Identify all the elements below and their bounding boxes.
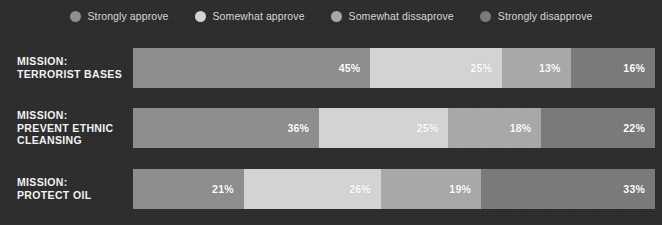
bar-segment-value: 25% [470, 63, 492, 74]
bar-segment[interactable]: 13% [502, 48, 571, 88]
legend-item-label: Strongly approve [88, 11, 169, 22]
bar-segment[interactable]: 22% [541, 108, 655, 148]
legend-item[interactable]: Strongly disapprove [480, 11, 593, 22]
stacked-bar: 21%26%19%33% [133, 169, 655, 209]
bar-segment-value: 16% [623, 63, 645, 74]
row-label-line: MISSION: [17, 55, 133, 68]
chart-row: MISSION:TERRORIST BASES45%25%13%16% [0, 48, 662, 88]
legend-dot-icon [70, 11, 81, 22]
bar-segment[interactable]: 45% [133, 48, 370, 88]
bar-segment[interactable]: 36% [133, 108, 319, 148]
legend-item-label: Strongly disapprove [498, 11, 593, 22]
row-label-line: TERRORIST BASES [17, 68, 133, 81]
bar-segment[interactable]: 26% [244, 169, 381, 209]
bar-segment-value: 19% [449, 184, 471, 195]
bar-segment-value: 36% [287, 123, 309, 134]
bar-segment-value: 22% [623, 123, 645, 134]
bar-segment[interactable]: 33% [481, 169, 655, 209]
bar-segment[interactable]: 25% [370, 48, 502, 88]
stacked-bar: 36%25%18%22% [133, 108, 655, 148]
bar-segment[interactable]: 25% [319, 108, 448, 148]
stacked-bar: 45%25%13%16% [133, 48, 655, 88]
row-label: MISSION:PREVENT ETHNICCLEANSING [0, 109, 133, 147]
row-label: MISSION:PROTECT OIL [0, 176, 133, 201]
row-label-line: CLEANSING [17, 134, 133, 147]
row-label-line: PROTECT OIL [17, 189, 133, 202]
chart-row: MISSION:PROTECT OIL21%26%19%33% [0, 169, 662, 209]
legend-item-label: Somewhat dissaprove [349, 11, 454, 22]
legend-item[interactable]: Somewhat approve [195, 11, 305, 22]
bar-segment[interactable]: 18% [448, 108, 541, 148]
chart-legend: Strongly approveSomewhat approveSomewhat… [0, 11, 662, 22]
bar-segment[interactable]: 19% [381, 169, 481, 209]
bar-segment[interactable]: 21% [133, 169, 244, 209]
bar-segment-value: 21% [212, 184, 234, 195]
row-label-line: PREVENT ETHNIC [17, 122, 133, 135]
stacked-bar-chart: Strongly approveSomewhat approveSomewhat… [0, 0, 662, 225]
bar-segment-value: 33% [623, 184, 645, 195]
chart-row: MISSION:PREVENT ETHNICCLEANSING36%25%18%… [0, 108, 662, 148]
row-label-line: MISSION: [17, 109, 133, 122]
legend-dot-icon [195, 11, 206, 22]
bar-segment-value: 25% [417, 123, 439, 134]
bar-segment-value: 45% [339, 63, 361, 74]
bar-segment-value: 26% [349, 184, 371, 195]
legend-item[interactable]: Strongly approve [70, 11, 169, 22]
legend-dot-icon [480, 11, 491, 22]
bar-segment-value: 18% [510, 123, 532, 134]
legend-item-label: Somewhat approve [213, 11, 305, 22]
legend-dot-icon [331, 11, 342, 22]
row-label-line: MISSION: [17, 176, 133, 189]
row-label: MISSION:TERRORIST BASES [0, 55, 133, 80]
bar-segment[interactable]: 16% [571, 48, 655, 88]
bar-segment-value: 13% [539, 63, 561, 74]
legend-item[interactable]: Somewhat dissaprove [331, 11, 454, 22]
